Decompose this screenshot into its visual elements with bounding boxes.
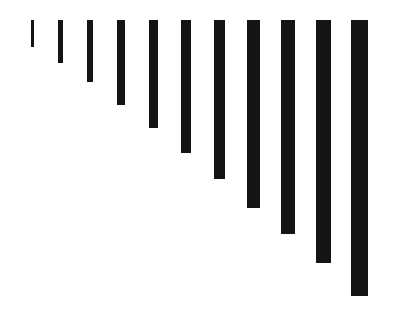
bar-chart	[0, 0, 416, 314]
bar-3	[87, 20, 93, 82]
bar-8	[247, 20, 260, 208]
bar-7	[214, 20, 225, 179]
bar-2	[58, 20, 63, 63]
bar-4	[117, 20, 125, 105]
bar-9	[281, 20, 295, 234]
bar-6	[181, 20, 191, 153]
bar-10	[316, 20, 331, 263]
bar-11	[351, 20, 368, 296]
bar-1	[31, 20, 34, 47]
bar-5	[149, 20, 158, 128]
